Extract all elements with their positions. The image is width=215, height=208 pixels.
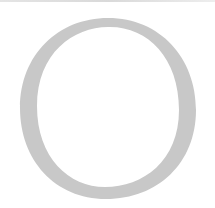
letter-o-shape bbox=[0, 0, 215, 208]
letter-o-glyph: O bbox=[0, 0, 215, 208]
